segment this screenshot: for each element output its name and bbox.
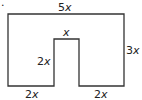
label-right: 3x — [126, 44, 140, 57]
notched-rectangle-outline — [8, 14, 124, 86]
figure-marker: . — [1, 0, 5, 9]
label-bottom-right: 2x — [94, 88, 108, 100]
figure-svg: . 5x 3x x 2x 2x 2x — [0, 0, 142, 100]
notched-rectangle-figure: . 5x 3x x 2x 2x 2x — [0, 0, 142, 100]
label-top: 5x — [58, 1, 72, 14]
label-notch-top: x — [62, 26, 70, 39]
label-bottom-left: 2x — [25, 88, 39, 100]
label-notch-side: 2x — [37, 55, 51, 68]
